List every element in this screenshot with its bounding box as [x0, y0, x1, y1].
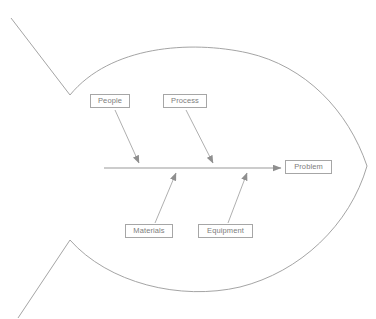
- fish-tail-upper-fin: [11, 18, 70, 95]
- cause-label-process: Process: [171, 97, 199, 105]
- cause-arrow-materials: [155, 173, 176, 223]
- effect-label-problem: Problem: [294, 163, 323, 171]
- effect-box-problem[interactable]: Problem: [285, 160, 332, 174]
- cause-box-materials[interactable]: Materials: [125, 224, 173, 238]
- fish-tail-lower-fin: [18, 240, 70, 318]
- cause-label-materials: Materials: [133, 227, 164, 235]
- cause-label-equipment: Equipment: [207, 227, 244, 235]
- cause-arrow-equipment: [228, 173, 247, 223]
- cause-arrow-people: [115, 110, 139, 163]
- cause-box-process[interactable]: Process: [163, 94, 207, 108]
- cause-label-people: People: [98, 97, 122, 105]
- cause-box-people[interactable]: People: [90, 94, 130, 108]
- cause-arrow-process: [186, 110, 213, 163]
- fishbone-diagram-canvas: People Process Materials Equipment Probl…: [0, 0, 376, 319]
- cause-box-equipment[interactable]: Equipment: [198, 224, 253, 238]
